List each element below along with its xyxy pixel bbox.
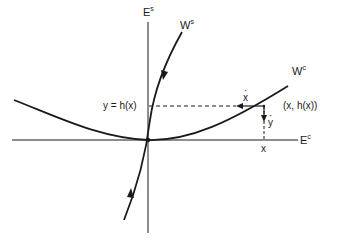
- label-es: Es: [143, 7, 154, 18]
- label-y-equals-hx: y = h(x): [103, 101, 137, 111]
- label-ec: Ec: [300, 135, 311, 146]
- label-wc-base: W: [292, 65, 302, 77]
- label-ws-sup: s: [190, 18, 194, 25]
- stable-manifold-curve: [124, 32, 182, 220]
- label-point-x-hx: (x, h(x)): [283, 101, 317, 111]
- label-ec-sup: c: [307, 133, 311, 140]
- label-y-dot-text: y: [268, 118, 273, 128]
- diagram-canvas: [0, 0, 340, 241]
- point-x-hx: [263, 105, 265, 107]
- label-es-sup: s: [150, 5, 154, 12]
- origin-point: [146, 138, 150, 142]
- label-ws: Ws: [180, 20, 194, 31]
- arrow-down-small-icon: [261, 115, 267, 122]
- label-x-dot-text: x: [243, 93, 248, 103]
- label-y-dot: y: [268, 118, 273, 128]
- label-ws-base: W: [180, 19, 190, 31]
- arrow-left-icon: [236, 103, 243, 109]
- label-x-tick: x: [261, 144, 266, 154]
- label-wc-sup: c: [302, 64, 306, 71]
- arrow-down-icon: [161, 70, 168, 80]
- label-x-dot: x: [243, 93, 248, 103]
- label-wc: Wc: [292, 66, 306, 77]
